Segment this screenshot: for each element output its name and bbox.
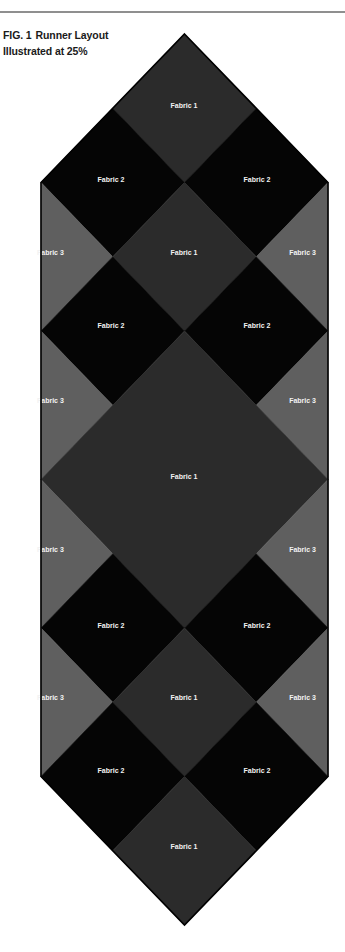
fabric-label: Fabric 3 <box>289 546 316 553</box>
fabric-label: Fabric 2 <box>244 176 271 183</box>
fabric-label: Fabric 3 <box>289 694 316 701</box>
fabric-label: Fabric 2 <box>98 176 125 183</box>
fabric-label: Fabric 2 <box>98 622 125 629</box>
fabric-label: Fabric 1 <box>171 843 198 850</box>
fabric-label: Fabric 1 <box>171 249 198 256</box>
fabric-label: Fabric 1 <box>171 694 198 701</box>
fabric-label: Fabric 2 <box>244 322 271 329</box>
fabric-label: Fabric 2 <box>244 622 271 629</box>
fabric-label: Fabric 2 <box>98 322 125 329</box>
fabric-label: Fabric 2 <box>98 767 125 774</box>
fabric-label: Fabric 2 <box>244 767 271 774</box>
fabric-label: Fabric 1 <box>171 102 198 109</box>
fabric-label: Fabric 3 <box>289 249 316 256</box>
fabric-label: Fabric 1 <box>171 473 198 480</box>
runner-layout-diagram: Fabric 1Fabric 2Fabric 2Fabric 3Fabric 1… <box>0 0 345 952</box>
fabric-label: Fabric 3 <box>289 397 316 404</box>
